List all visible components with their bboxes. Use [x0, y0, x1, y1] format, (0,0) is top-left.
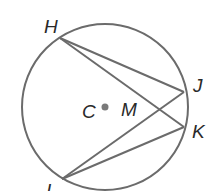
label-m: M — [121, 99, 137, 120]
segment-hj — [60, 38, 184, 92]
label-h: H — [44, 16, 58, 37]
label-i: I — [46, 180, 52, 191]
label-j: J — [192, 75, 203, 96]
circle-diagram: H J K I M C — [0, 0, 220, 191]
center-point-dot — [102, 104, 109, 111]
label-c: C — [82, 101, 96, 122]
label-k: K — [192, 121, 206, 142]
